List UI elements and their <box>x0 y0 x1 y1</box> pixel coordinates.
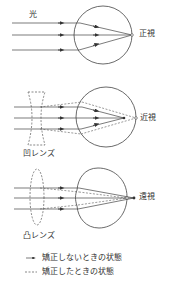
legend-uncorrected-label: 矯正しないときの状態 <box>42 253 122 263</box>
concave-lens <box>28 92 45 145</box>
legend-symbols <box>25 258 37 272</box>
concave-lens-label: 凹レンズ <box>23 149 55 159</box>
vision-diagram <box>0 0 171 291</box>
convex-lens-label: 凸レンズ <box>23 231 55 241</box>
convex-lens <box>30 169 44 225</box>
light-label: 光 <box>29 10 37 20</box>
hyperopia-panel <box>14 168 135 228</box>
hyperopia-label: 遠視 <box>139 192 155 202</box>
legend-corrected-label: 矯正したときの状態 <box>42 267 114 277</box>
myopia-panel <box>14 87 137 147</box>
myopia-label: 近視 <box>140 113 156 123</box>
normal-vision-label: 正視 <box>139 29 155 39</box>
eyeball-myopia <box>76 87 136 147</box>
